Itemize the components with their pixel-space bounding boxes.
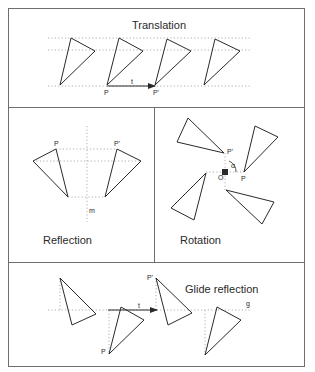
rotation-triangle-2 bbox=[244, 126, 278, 172]
rotation-triangle-4 bbox=[226, 190, 274, 224]
translation-label-t: t bbox=[131, 78, 133, 85]
frame bbox=[9, 9, 305, 367]
rotation-label-o: O bbox=[218, 174, 223, 181]
glide-label-p: P bbox=[101, 348, 106, 355]
rotation-title: Rotation bbox=[180, 234, 221, 246]
translation-panel bbox=[48, 38, 252, 86]
glide-triangle-2 bbox=[109, 307, 144, 354]
diagram-canvas bbox=[0, 0, 315, 372]
reflection-triangle-image bbox=[105, 149, 141, 197]
isometry-diagram: Translation P P' t Reflection P P' m Rot… bbox=[0, 0, 315, 372]
glide-reflection-title: Glide reflection bbox=[185, 283, 258, 295]
glide-triangle-4 bbox=[205, 307, 241, 355]
translation-triangle-1 bbox=[60, 38, 95, 85]
reflection-guides bbox=[33, 126, 141, 222]
rotation-panel bbox=[171, 118, 278, 224]
translation-label-p: P bbox=[104, 89, 109, 96]
glide-label-t: t bbox=[138, 302, 140, 309]
outer-border bbox=[9, 9, 305, 367]
reflection-title: Reflection bbox=[43, 234, 92, 246]
translation-label-p-prime: P' bbox=[153, 89, 159, 96]
translation-triangle-2 bbox=[107, 38, 143, 85]
reflection-label-m: m bbox=[89, 207, 95, 214]
rotation-label-p-prime: P' bbox=[227, 148, 233, 155]
glide-label-p-prime: P' bbox=[147, 274, 153, 281]
rotation-label-p: P bbox=[241, 175, 246, 182]
rotation-triangle-1 bbox=[177, 118, 224, 153]
reflection-triangle-original bbox=[33, 149, 68, 197]
reflection-label-p-prime: P' bbox=[114, 140, 120, 147]
glide-label-g: g bbox=[246, 300, 250, 307]
translation-title: Translation bbox=[132, 19, 186, 31]
reflection-panel bbox=[33, 126, 141, 222]
translation-triangle-3 bbox=[155, 39, 191, 85]
translation-guides bbox=[48, 38, 252, 86]
rotation-triangle-3 bbox=[171, 173, 206, 220]
reflection-label-p: P bbox=[54, 140, 59, 147]
rotation-label-alpha: α bbox=[231, 162, 235, 169]
glide-triangle-1 bbox=[60, 278, 96, 325]
translation-triangle-4 bbox=[204, 39, 240, 85]
